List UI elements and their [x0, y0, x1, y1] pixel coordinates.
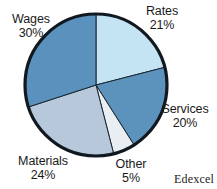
slice-label-rates-name: Rates: [133, 5, 191, 19]
slice-label-services-name: Services: [155, 103, 215, 117]
slice-label-services: Services 20%: [155, 103, 215, 130]
slice-label-other-name: Other: [107, 158, 155, 172]
slice-label-rates: Rates 21%: [133, 5, 191, 32]
slice-label-other: Other 5%: [107, 158, 155, 185]
pie-chart-figure: Rates 21% Wages 30% Services 20% Materia…: [0, 0, 217, 189]
slice-label-wages-name: Wages: [2, 13, 60, 27]
slice-label-wages: Wages 30%: [2, 13, 60, 40]
attribution-text: Edexcel: [174, 172, 214, 187]
slice-label-rates-value: 21%: [133, 19, 191, 33]
slice-label-materials-name: Materials: [6, 155, 80, 169]
slice-label-services-value: 20%: [155, 117, 215, 131]
slice-label-materials: Materials 24%: [6, 155, 80, 182]
slice-label-other-value: 5%: [107, 172, 155, 186]
slice-label-materials-value: 24%: [6, 169, 80, 183]
slice-label-wages-value: 30%: [2, 27, 60, 41]
